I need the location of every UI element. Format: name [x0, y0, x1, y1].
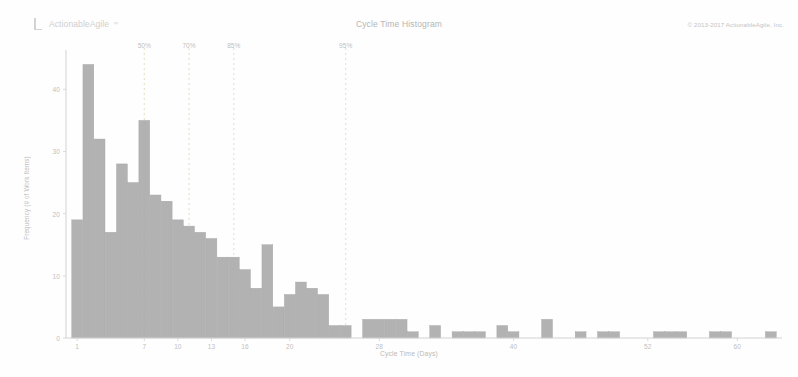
histogram-bar [676, 332, 687, 338]
histogram-bar [206, 239, 217, 338]
histogram-bar [139, 120, 150, 338]
x-tick-label: 52 [644, 343, 651, 350]
histogram-bar [128, 183, 139, 338]
histogram-bar [463, 332, 474, 338]
histogram-bar [765, 332, 776, 338]
histogram-bar [329, 326, 340, 338]
histogram-bar [217, 257, 228, 338]
histogram-bar [117, 164, 128, 338]
histogram-bar [374, 319, 385, 338]
x-tick-label: 20 [286, 343, 293, 350]
histogram-bar [721, 332, 732, 338]
histogram-bar [161, 201, 172, 338]
histogram-bar [228, 257, 239, 338]
x-tick-label: 10 [174, 343, 181, 350]
histogram-bar [508, 332, 519, 338]
histogram-bar [251, 288, 262, 338]
x-tick-label: 7 [142, 343, 146, 350]
histogram-bar [340, 326, 351, 338]
percentile-label: 70% [182, 42, 195, 49]
chart-plot-area [0, 0, 798, 377]
y-axis-title: Frequency (# of Work Items) [23, 156, 30, 240]
histogram-bar [430, 326, 441, 338]
histogram-svg [0, 0, 798, 377]
histogram-bar [83, 64, 94, 338]
histogram-bar [598, 332, 609, 338]
histogram-bar [654, 332, 665, 338]
x-tick-label: 16 [241, 343, 248, 350]
x-tick-label: 1 [75, 343, 79, 350]
histogram-bar [172, 220, 183, 338]
percentile-label: 95% [339, 42, 352, 49]
histogram-bar [497, 326, 508, 338]
x-tick-label: 28 [376, 343, 383, 350]
y-tick-label: 40 [42, 86, 60, 93]
x-tick-label: 13 [208, 343, 215, 350]
percentile-label: 50% [138, 42, 151, 49]
histogram-bar [240, 270, 251, 338]
histogram-bar [396, 319, 407, 338]
histogram-bar [665, 332, 676, 338]
histogram-bar [363, 319, 374, 338]
y-tick-label: 30 [42, 148, 60, 155]
percentile-label: 85% [227, 42, 240, 49]
histogram-bar [195, 232, 206, 338]
histogram-bar [273, 307, 284, 338]
y-tick-label: 20 [42, 210, 60, 217]
histogram-bar [318, 294, 329, 338]
x-tick-label: 60 [734, 343, 741, 350]
histogram-bar [385, 319, 396, 338]
histogram-bar [150, 195, 161, 338]
histogram-bar [105, 232, 116, 338]
histogram-bar [452, 332, 463, 338]
histogram-bar [609, 332, 620, 338]
histogram-bar [72, 220, 83, 338]
histogram-bar [709, 332, 720, 338]
histogram-bar [542, 319, 553, 338]
histogram-bar [184, 226, 195, 338]
histogram-bar [262, 245, 273, 338]
y-tick-label: 10 [42, 272, 60, 279]
histogram-bar [94, 139, 105, 338]
histogram-bar [296, 282, 307, 338]
histogram-bar [307, 288, 318, 338]
x-axis-title: Cycle Time (Days) [380, 350, 438, 357]
histogram-bar [284, 294, 295, 338]
histogram-bar [475, 332, 486, 338]
histogram-bar [407, 332, 418, 338]
y-tick-label: 0 [42, 335, 60, 342]
cycle-time-histogram-app: ActionableAgile ™ Cycle Time Histogram ©… [0, 0, 798, 377]
histogram-bar [575, 332, 586, 338]
x-tick-label: 40 [510, 343, 517, 350]
